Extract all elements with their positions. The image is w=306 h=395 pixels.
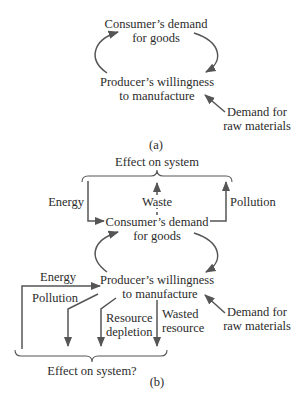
- consumer-demand-label-a: Consumer’s demand: [105, 17, 209, 31]
- resource-depletion-label: Resource: [106, 311, 153, 325]
- cycle-arrow-right-a: [194, 33, 218, 72]
- panel-b: Effect on system Energy Waste Pollution …: [15, 155, 291, 389]
- raw-materials-label-a: Demand for: [227, 105, 288, 119]
- cycle-arrow-left-a: [95, 32, 118, 73]
- producer-willingness-label-b: Producer’s willingness: [100, 273, 214, 287]
- waste-label: Waste: [142, 195, 173, 209]
- consumer-demand-label-a-2: for goods: [132, 31, 180, 45]
- cycle-arrow-right-b: [194, 233, 218, 272]
- consumer-demand-label-b-2: for goods: [133, 229, 181, 243]
- cycle-arrow-left-b: [95, 232, 118, 272]
- caption-b: (b): [150, 375, 165, 389]
- energy-arrow-top: [88, 181, 104, 221]
- bottom-brace: [15, 350, 167, 362]
- resource-depletion-label-2: depletion: [106, 325, 153, 339]
- top-brace: [82, 170, 232, 182]
- producer-willingness-label-a-2: to manufacture: [119, 89, 195, 103]
- producer-willingness-label-a: Producer’s willingness: [100, 75, 214, 89]
- caption-a: (a): [149, 138, 163, 152]
- economic-cycle-diagram: Consumer’s demand for goods Producer’s w…: [0, 0, 306, 395]
- raw-materials-label-b-2: raw materials: [223, 319, 291, 333]
- wasted-resource-label: Wasted: [162, 307, 199, 321]
- wasted-resource-label-2: resource: [162, 321, 205, 335]
- raw-materials-label-a-2: raw materials: [223, 119, 291, 133]
- raw-materials-arrow-b: [205, 295, 225, 313]
- raw-materials-arrow-a: [205, 95, 225, 112]
- panel-a: Consumer’s demand for goods Producer’s w…: [95, 17, 291, 152]
- consumer-demand-label-b: Consumer’s demand: [106, 215, 210, 229]
- effect-on-system-top-label: Effect on system: [115, 155, 199, 169]
- pollution-arrow-top: [210, 182, 226, 221]
- producer-willingness-label-b-2: to manufacture: [122, 287, 198, 301]
- raw-materials-label-b: Demand for: [227, 305, 288, 319]
- effect-on-system-bottom-label: Effect on system?: [47, 364, 137, 378]
- pollution-label-bottom: Pollution: [32, 291, 79, 305]
- pollution-label-top: Pollution: [230, 195, 277, 209]
- energy-label-top: Energy: [48, 195, 85, 209]
- energy-label-bottom: Energy: [40, 270, 77, 284]
